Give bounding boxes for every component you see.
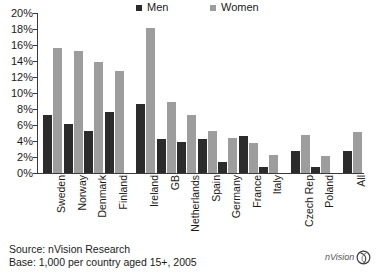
footer-base: Base: 1,000 per country aged 15+, 2005 (9, 256, 309, 269)
y-axis-tick-label: 8% (0, 104, 33, 115)
x-axis-label: France (252, 175, 263, 208)
bar-women (249, 143, 258, 173)
nvision-logo-mark-icon (356, 250, 371, 265)
x-axis-label: All (356, 175, 367, 187)
bar-men (136, 104, 145, 173)
y-axis-tick-labels: 0%2%4%6%8%10%12%14%16%18%20% (0, 13, 33, 173)
legend-label-men: Men (147, 2, 168, 13)
y-axis-tick-mark (33, 61, 37, 62)
bar-men (198, 139, 207, 173)
chart-footer: Source: nVision Research Base: 1,000 per… (9, 243, 309, 269)
bar-men (218, 162, 227, 173)
x-axis-label: Spain (211, 175, 222, 202)
y-axis-tick-label: 0% (0, 168, 33, 179)
nvision-logo: nVision (325, 250, 371, 265)
legend-swatch-women-icon (210, 5, 216, 11)
bar-women (353, 132, 362, 173)
bar-men (105, 112, 114, 173)
bar-men (84, 131, 93, 173)
bar-women (53, 48, 62, 173)
bar-men (43, 115, 52, 173)
bar-men (311, 167, 320, 173)
bar-women (74, 51, 83, 173)
bar-women (301, 135, 310, 173)
bar-men (239, 136, 248, 173)
y-axis-tick-label: 16% (0, 40, 33, 51)
bar-men (291, 151, 300, 173)
legend-item-men: Men (136, 2, 168, 13)
y-axis-tick-label: 14% (0, 56, 33, 67)
x-axis-category-labels: SwedenNorwayDenmarkFinlandIrelandGBNethe… (37, 175, 364, 237)
y-axis-tick-mark (33, 141, 37, 142)
y-axis-tick-label: 6% (0, 120, 33, 131)
y-axis-tick-label: 18% (0, 24, 33, 35)
y-axis-tick-mark (33, 29, 37, 30)
x-axis-label: Norway (77, 175, 88, 211)
y-axis-tick-mark (33, 125, 37, 126)
bar-men (157, 139, 166, 173)
y-axis-tick-mark (33, 45, 37, 46)
y-axis-tick-label: 4% (0, 136, 33, 147)
bar-women (115, 71, 124, 173)
x-axis-label: Denmark (97, 175, 108, 218)
bar-women (228, 138, 237, 173)
footer-source: Source: nVision Research (9, 243, 309, 256)
legend-swatch-men-icon (136, 5, 142, 11)
x-axis-label: Czech Rep (304, 175, 315, 227)
x-axis-label: Germany (231, 175, 242, 218)
y-axis-tick-mark (33, 109, 37, 110)
x-axis-label: Finland (118, 175, 129, 209)
bar-women (187, 115, 196, 173)
x-axis-label: Italy (272, 175, 283, 194)
y-axis-tick-mark (33, 77, 37, 78)
legend-item-women: Women (210, 2, 259, 13)
y-axis-line (37, 13, 38, 173)
x-axis-label: GB (170, 175, 181, 190)
bar-women (321, 156, 330, 173)
y-axis-tick-mark (33, 173, 37, 174)
y-axis-tick-label: 10% (0, 88, 33, 99)
x-axis-label: Sweden (56, 175, 67, 213)
y-axis-tick-mark (33, 13, 37, 14)
bar-women (269, 155, 278, 173)
y-axis-tick-label: 12% (0, 72, 33, 83)
bar-women (146, 28, 155, 173)
bar-women (208, 131, 217, 173)
logo-text: nVision (325, 253, 354, 262)
chart-plot-area (37, 13, 364, 173)
y-axis-tick-mark (33, 93, 37, 94)
bar-women (94, 62, 103, 173)
x-axis-label: Netherlands (190, 175, 201, 232)
legend-label-women: Women (221, 2, 259, 13)
bar-men (177, 142, 186, 173)
x-axis-label: Ireland (149, 175, 160, 207)
y-axis-tick-label: 20% (0, 8, 33, 19)
bar-men (64, 124, 73, 173)
bar-women (167, 102, 176, 173)
bar-men (259, 167, 268, 173)
bar-men (343, 151, 352, 173)
y-axis-tick-mark (33, 157, 37, 158)
x-axis-label: Poland (324, 175, 335, 208)
y-axis-tick-label: 2% (0, 152, 33, 163)
